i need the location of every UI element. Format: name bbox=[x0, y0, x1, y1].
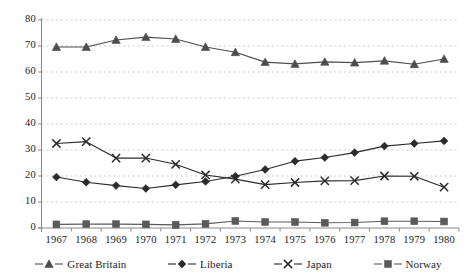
triangle-marker bbox=[45, 260, 53, 268]
diamond-marker bbox=[142, 185, 150, 193]
x-marker bbox=[172, 160, 180, 168]
diamond-marker bbox=[112, 182, 120, 190]
legend-item-liberia[interactable]: Liberia bbox=[167, 258, 232, 270]
triangle-marker bbox=[34, 258, 64, 270]
square-marker bbox=[384, 261, 391, 268]
legend-label: Great Britain bbox=[67, 258, 126, 270]
diamond-marker bbox=[440, 137, 448, 145]
diamond-marker bbox=[381, 142, 389, 150]
diamond-marker bbox=[53, 173, 61, 181]
x-marker bbox=[284, 260, 292, 268]
legend-item-japan[interactable]: Japan bbox=[273, 258, 332, 270]
square-marker bbox=[351, 219, 358, 226]
line-chart: 80706050403020100 1967196819691970197119… bbox=[0, 0, 476, 279]
gridlines bbox=[42, 20, 460, 202]
legend-label: Norway bbox=[406, 258, 442, 270]
y-tick-50: 50 bbox=[12, 91, 36, 102]
y-tick-0: 0 bbox=[12, 221, 36, 232]
diamond-marker bbox=[178, 260, 186, 268]
legend-label: Liberia bbox=[200, 258, 232, 270]
diamond-marker bbox=[172, 181, 180, 189]
legend-item-great-britain[interactable]: Great Britain bbox=[34, 258, 126, 270]
square-marker bbox=[83, 221, 90, 228]
axis-lines bbox=[38, 18, 460, 232]
y-tick-60: 60 bbox=[12, 65, 36, 76]
diamond-marker bbox=[82, 178, 90, 186]
square-marker bbox=[232, 218, 239, 225]
diamond-marker bbox=[410, 140, 418, 148]
square-marker bbox=[321, 219, 328, 226]
x-marker bbox=[273, 258, 303, 270]
y-tick-80: 80 bbox=[12, 13, 36, 24]
square-marker bbox=[292, 219, 299, 226]
y-tick-20: 20 bbox=[12, 169, 36, 180]
triangle-marker bbox=[440, 55, 448, 63]
square-marker bbox=[441, 218, 448, 225]
series-great-britain bbox=[52, 33, 448, 68]
y-tick-10: 10 bbox=[12, 195, 36, 206]
series-norway bbox=[53, 218, 447, 229]
series-liberia bbox=[53, 137, 448, 192]
diamond-marker bbox=[351, 149, 359, 157]
square-marker bbox=[53, 221, 60, 228]
x-tick-1980: 1980 bbox=[427, 234, 461, 245]
square-marker bbox=[262, 219, 269, 226]
square-marker bbox=[202, 220, 209, 227]
y-tick-30: 30 bbox=[12, 143, 36, 154]
square-marker bbox=[373, 258, 403, 270]
x-marker bbox=[440, 183, 448, 191]
y-tick-70: 70 bbox=[12, 39, 36, 50]
square-marker bbox=[411, 218, 418, 225]
y-tick-40: 40 bbox=[12, 117, 36, 128]
square-marker bbox=[113, 221, 120, 228]
square-marker bbox=[172, 221, 179, 228]
legend-item-norway[interactable]: Norway bbox=[373, 258, 442, 270]
diamond-marker bbox=[321, 154, 329, 162]
diamond-marker bbox=[167, 258, 197, 270]
legend-label: Japan bbox=[306, 258, 332, 270]
diamond-marker bbox=[291, 157, 299, 165]
square-marker bbox=[142, 221, 149, 228]
square-marker bbox=[381, 218, 388, 225]
chart-legend: Great BritainLiberiaJapanNorway bbox=[0, 252, 476, 276]
diamond-marker bbox=[261, 166, 269, 174]
